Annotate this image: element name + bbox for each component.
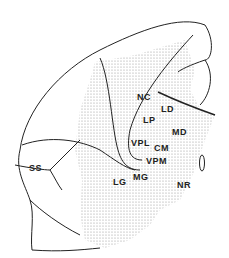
label-cm: CM — [154, 144, 169, 153]
label-lp: LP — [143, 116, 156, 125]
label-vpl: VPL — [131, 139, 150, 148]
sulcus-ss — [15, 140, 80, 190]
label-vpm: VPM — [146, 157, 167, 166]
label-mg: MG — [133, 173, 149, 182]
brain-diagram — [0, 0, 229, 258]
label-nr: NR — [177, 181, 191, 190]
label-nc: NC — [137, 93, 151, 102]
structure-oval — [200, 155, 205, 171]
label-lg: LG — [113, 178, 127, 187]
label-ld: LD — [161, 105, 174, 114]
label-md: MD — [172, 128, 187, 137]
label-ss: SS — [29, 164, 42, 173]
